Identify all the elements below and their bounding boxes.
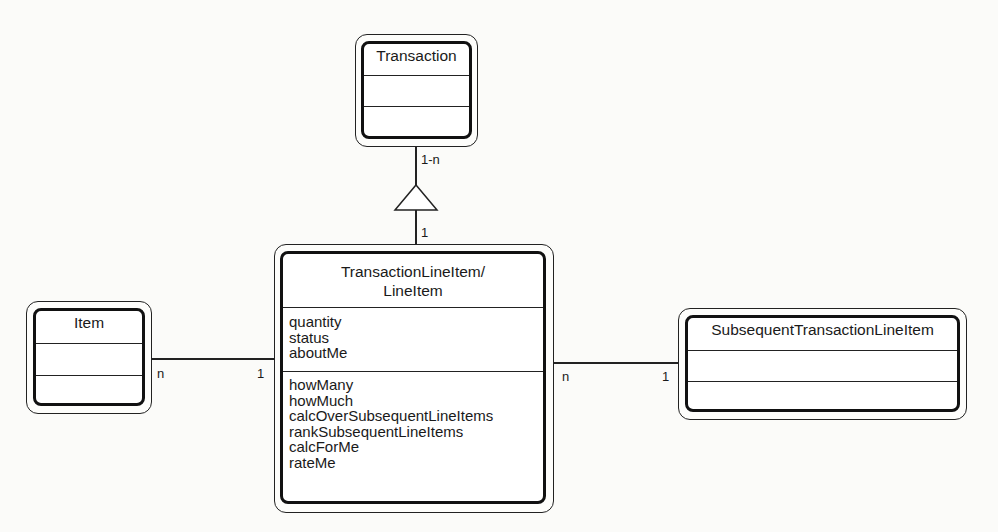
method: rankSubsequentLineItems (289, 424, 537, 440)
class-tli-name: TransactionLineItem/ LineItem (283, 254, 543, 308)
class-transaction-attributes (364, 76, 469, 107)
multiplicity-tli-right: n (562, 369, 569, 384)
multiplicity-item: n (157, 366, 164, 381)
multiplicity-tli-top: 1 (421, 225, 428, 240)
class-tli-attributes: quantity status aboutMe (283, 308, 543, 372)
multiplicity-transaction: 1-n (421, 152, 440, 167)
class-subsequent-transaction-line-item[interactable]: SubsequentTransactionLineItem (685, 315, 960, 412)
class-item-attributes (36, 344, 142, 376)
connector-transaction-vertical-top (415, 146, 417, 186)
connector-tli-subsequent (553, 362, 679, 364)
multiplicity-subsequent: 1 (662, 369, 669, 384)
attribute: quantity (289, 314, 537, 330)
aggregation-triangle-icon (393, 184, 439, 212)
class-transaction[interactable]: Transaction (361, 41, 472, 139)
attribute: status (289, 330, 537, 346)
class-subsequent-methods (688, 382, 957, 409)
method: howMuch (289, 393, 537, 409)
class-tli-name-line1: TransactionLineItem/ (287, 262, 539, 281)
class-transaction-methods (364, 107, 469, 136)
class-subsequent-name: SubsequentTransactionLineItem (688, 318, 957, 351)
class-transaction-name: Transaction (364, 44, 469, 76)
multiplicity-tli-left: 1 (257, 366, 264, 381)
connector-item-tli (151, 358, 275, 360)
class-tli-name-line2: LineItem (287, 281, 539, 300)
class-item-methods (36, 376, 142, 403)
attribute: aboutMe (289, 345, 537, 361)
method: calcOverSubsequentLineItems (289, 408, 537, 424)
class-subsequent-attributes (688, 351, 957, 382)
connector-transaction-vertical-bottom (415, 210, 417, 245)
class-transaction-line-item[interactable]: TransactionLineItem/ LineItem quantity s… (280, 251, 546, 504)
method: rateMe (289, 455, 537, 471)
method: howMany (289, 377, 537, 393)
class-item-name: Item (36, 311, 142, 344)
method: calcForMe (289, 439, 537, 455)
class-item[interactable]: Item (33, 308, 145, 406)
class-tli-methods: howMany howMuch calcOverSubsequentLineIt… (283, 372, 543, 501)
